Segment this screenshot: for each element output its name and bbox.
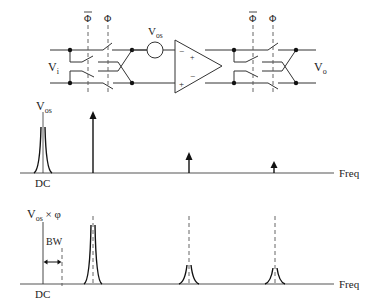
svg-text:−: −	[190, 71, 195, 81]
svg-text:+: +	[190, 53, 195, 62]
vos-phi-ylabel: Vos × φ	[27, 207, 61, 223]
dc-label: DC	[35, 177, 50, 189]
phase-bar-label: Φ	[84, 13, 91, 24]
harmonic-arrow-5	[271, 161, 278, 173]
phase-label: Φ	[104, 13, 111, 24]
output-label: Vo	[314, 60, 327, 76]
input-label: Vi	[48, 60, 60, 76]
harmonic-arrow-3	[186, 152, 193, 173]
harmonic-arrow-1	[90, 111, 97, 173]
phase-bar-label-out: Φ	[249, 13, 256, 24]
dc-label-2: DC	[35, 288, 50, 300]
freq-label: Freq	[339, 167, 360, 179]
svg-text:+: +	[179, 79, 184, 89]
chopper-diagram: Φ Φ Vi Vos − + + −	[0, 0, 378, 308]
offset-label: Vos	[148, 25, 163, 40]
offset-source: Vos	[132, 25, 176, 58]
bw-label: BW	[46, 236, 63, 247]
bw-arrow	[44, 260, 62, 265]
phase-label-out: Φ	[269, 13, 276, 24]
freq-label-2: Freq	[339, 278, 360, 290]
amplifier: − + + −	[175, 40, 260, 93]
circuit: Φ Φ Vi Vos − + + −	[48, 12, 327, 95]
vos-ylabel: Vos	[36, 99, 52, 115]
svg-text:−: −	[179, 46, 184, 56]
spectrum-bottom: Freq Vos × φ DC BW	[20, 207, 360, 300]
spectrum-top: Freq Vos DC	[20, 99, 360, 189]
